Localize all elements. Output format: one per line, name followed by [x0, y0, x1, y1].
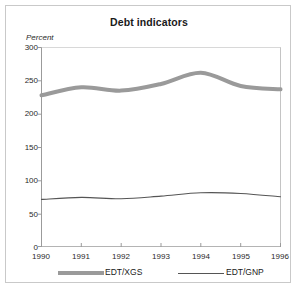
legend-swatch-edt-xgs	[58, 271, 104, 275]
chart-plot-area	[0, 0, 298, 290]
y-axis-ticks	[38, 48, 42, 247]
series-line-edt-xgs	[42, 73, 281, 96]
legend-swatch-edt-gnp	[178, 273, 224, 274]
legend-label-edt-xgs[interactable]: EDT/XGS	[105, 267, 142, 277]
axis-lines	[42, 47, 281, 247]
legend-label-edt-gnp[interactable]: EDT/GNP	[226, 267, 264, 277]
series-line-edt-gnp	[42, 193, 281, 200]
